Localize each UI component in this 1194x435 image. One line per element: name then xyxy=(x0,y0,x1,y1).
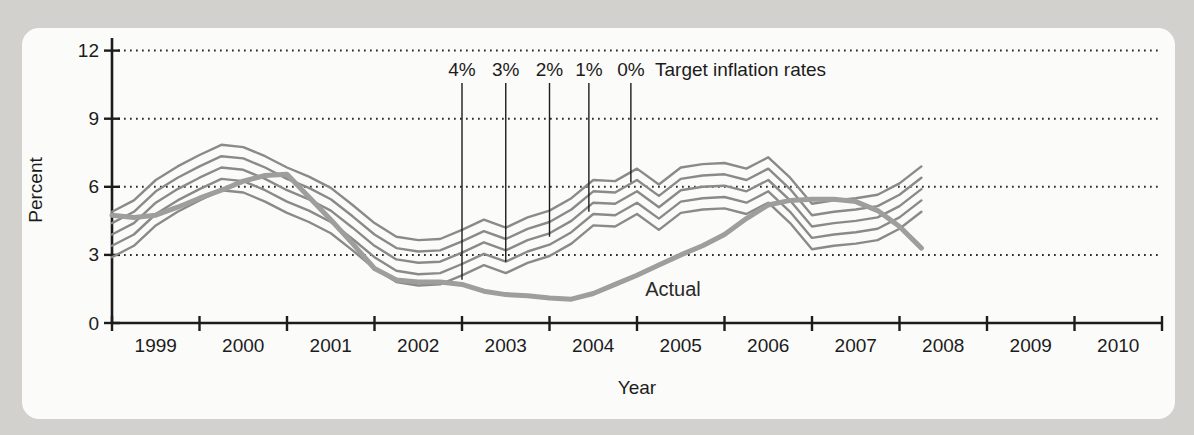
y-tick-label-12: 12 xyxy=(78,40,99,61)
x-axis-title: Year xyxy=(618,377,657,398)
y-tick-label-3: 3 xyxy=(88,244,99,265)
year-label-2005: 2005 xyxy=(660,335,702,356)
year-label-2003: 2003 xyxy=(485,335,527,356)
y-tick-label-6: 6 xyxy=(88,176,99,197)
inflation-target-chart: 036912 199920002001200220032004200520062… xyxy=(0,0,1194,435)
year-label-2000: 2000 xyxy=(222,335,264,356)
target-label-1%: 1% xyxy=(575,59,603,80)
target-label-2%: 2% xyxy=(536,59,564,80)
y-tick-label-9: 9 xyxy=(88,108,99,129)
chart-card xyxy=(22,28,1175,419)
y-axis-title: Percent xyxy=(25,157,46,223)
year-label-2009: 2009 xyxy=(1010,335,1052,356)
target-inflation-rates-title: Target inflation rates xyxy=(655,59,826,80)
year-label-2007: 2007 xyxy=(835,335,877,356)
year-label-2010: 2010 xyxy=(1097,335,1139,356)
year-label-2001: 2001 xyxy=(310,335,352,356)
target-label-4%: 4% xyxy=(448,59,476,80)
target-label-3%: 3% xyxy=(492,59,520,80)
year-label-2004: 2004 xyxy=(572,335,615,356)
year-label-2002: 2002 xyxy=(397,335,439,356)
year-label-1999: 1999 xyxy=(135,335,177,356)
figure-background: 036912 199920002001200220032004200520062… xyxy=(0,0,1194,435)
year-label-2006: 2006 xyxy=(747,335,789,356)
target-label-0%: 0% xyxy=(617,59,645,80)
year-label-2008: 2008 xyxy=(922,335,964,356)
y-tick-label-0: 0 xyxy=(88,313,99,334)
actual-line-label: Actual xyxy=(645,278,701,300)
